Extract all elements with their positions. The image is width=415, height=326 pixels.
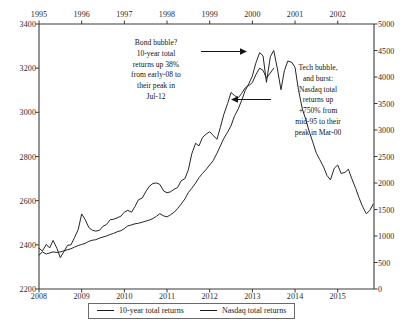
legend-swatch-10-year: [97, 310, 114, 311]
annotation-tech-bubble: Tech bubble,and burst:Nasdaq totalreturn…: [272, 63, 364, 138]
tick-right-4500: 4500: [378, 46, 394, 55]
tick-left-2400: 2400: [20, 240, 36, 249]
annotation-line: mid-95 to their: [272, 117, 364, 128]
annotation-line: returns up: [272, 95, 364, 106]
annotation-line: from early-08 to: [110, 70, 202, 81]
legend-label-10-year: 10-year total returns: [119, 306, 184, 315]
tick-bottom-2010: 2010: [116, 292, 132, 301]
annotation-line: Bond bubble?: [110, 38, 202, 49]
tick-top-2001: 2001: [287, 10, 303, 19]
annotation-line: Tech bubble,: [272, 63, 364, 74]
tick-left-2800: 2800: [20, 152, 36, 161]
tick-right-2000: 2000: [378, 179, 394, 188]
tick-bottom-2012: 2012: [201, 292, 217, 301]
tick-right-5000: 5000: [378, 20, 394, 29]
tick-right-1500: 1500: [378, 205, 394, 214]
tick-right-0: 0: [378, 285, 382, 294]
tick-left-2600: 2600: [20, 196, 36, 205]
annotation-line: +750% from: [272, 106, 364, 117]
tick-left-3200: 3200: [20, 64, 36, 73]
chart-legend: 10-year total returns Nasdaq total retur…: [88, 303, 295, 319]
tick-top-1995: 1995: [31, 10, 47, 19]
annotation-bond-bubble: Bond bubble?10-year totalreturns up 38%f…: [110, 38, 202, 103]
arrow-bond-bubble: [201, 48, 247, 55]
tick-top-1998: 1998: [159, 10, 175, 19]
arrow-tech-bubble: [231, 96, 271, 103]
tick-top-2002: 2002: [330, 10, 346, 19]
tick-bottom-2009: 2009: [73, 292, 89, 301]
tick-top-1997: 1997: [116, 10, 132, 19]
tick-bottom-2011: 2011: [159, 292, 175, 301]
tick-bottom-2014: 2014: [287, 292, 303, 301]
tick-bottom-2013: 2013: [244, 292, 260, 301]
tick-top-1999: 1999: [201, 10, 217, 19]
tick-right-3500: 3500: [378, 99, 394, 108]
tick-bottom-2015: 2015: [330, 292, 346, 301]
tick-top-2000: 2000: [244, 10, 260, 19]
annotation-line: 10-year total: [110, 49, 202, 60]
annotation-line: their peak in: [110, 81, 202, 92]
tick-left-3000: 3000: [20, 108, 36, 117]
tick-right-4000: 4000: [378, 73, 394, 82]
legend-entry-10-year-total-returns: 10-year total returns: [97, 306, 184, 315]
tick-left-2200: 2200: [20, 285, 36, 294]
annotation-line: and burst:: [272, 74, 364, 85]
legend-swatch-nasdaq: [200, 310, 217, 311]
annotation-line: Nasdaq total: [272, 85, 364, 96]
tick-right-2500: 2500: [378, 152, 394, 161]
annotation-line: returns up 38%: [110, 60, 202, 71]
legend-entry-nasdaq-total-returns: Nasdaq total returns: [200, 306, 286, 315]
chart-plot-area: [0, 0, 415, 326]
tick-right-500: 500: [378, 258, 390, 267]
annotation-line: Jul-12: [110, 92, 202, 103]
chart-container: 1995199619971998199920002001200220082009…: [0, 0, 415, 326]
annotation-arrows: [201, 48, 271, 103]
tick-left-3400: 3400: [20, 20, 36, 29]
tick-top-1996: 1996: [73, 10, 89, 19]
axis-ticks: [36, 21, 378, 293]
tick-right-1000: 1000: [378, 232, 394, 241]
tick-right-3000: 3000: [378, 126, 394, 135]
annotation-line: peak in Mar-00: [272, 128, 364, 139]
legend-label-nasdaq: Nasdaq total returns: [222, 306, 286, 315]
